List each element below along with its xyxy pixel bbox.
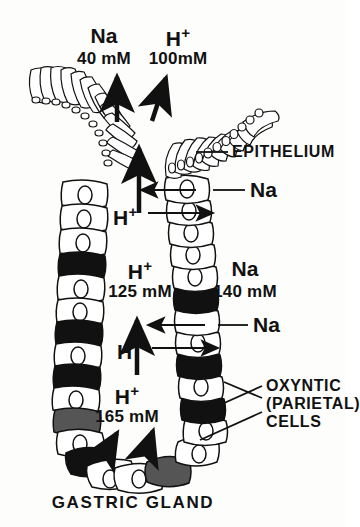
oxyntic-label-line2: (PARIETAL) — [266, 396, 360, 412]
h-lower-ion-text: H — [117, 340, 132, 363]
h-lower-arrow-label: H+ — [117, 338, 141, 362]
h-top-sup: + — [181, 24, 190, 41]
h-mid-conc-label: 125 mM — [108, 283, 172, 300]
na-mid-conc-label: 140 mM — [213, 283, 277, 300]
h-top-arrow — [152, 78, 166, 121]
h-top-ion-text: H — [166, 27, 181, 50]
h-bottom-ion-text: H — [115, 385, 130, 408]
na-lower-arrow-label: Na — [253, 314, 280, 335]
oxyntic-leader-line-2 — [224, 382, 262, 398]
h-upper-ion-text: H — [113, 206, 128, 229]
h-mid-ion-text: H — [128, 260, 143, 283]
h-top-ion-label: H+ — [166, 25, 190, 49]
h-mid-sup: + — [143, 257, 152, 274]
na-top-conc-label: 40 mM — [77, 50, 131, 67]
left-surface-epithelium — [29, 67, 138, 171]
na-upper-arrow-label: Na — [250, 179, 277, 200]
h-upper-arrow-label: H+ — [113, 204, 137, 228]
na-mid-ion-label: Na — [231, 258, 258, 279]
figure-title: GASTRIC GLAND — [52, 494, 214, 511]
h-bottom-conc-label: 165 mM — [95, 408, 159, 425]
oxyntic-label-line1: OXYNTIC — [266, 378, 341, 394]
epithelium-label: EPITHELIUM — [232, 144, 335, 160]
h-top-conc-label: 100mM — [149, 50, 208, 67]
h-mid-ion-label: H+ — [128, 258, 152, 282]
base-flow-left-arrow — [104, 433, 117, 455]
h-lower-sup: + — [132, 337, 141, 354]
oxyntic-label-line3: CELLS — [266, 414, 321, 430]
na-top-ion-label: Na — [90, 25, 117, 46]
right-limb-cells — [165, 175, 228, 445]
base-flow-right-arrow — [145, 431, 153, 455]
h-upper-sup: + — [128, 203, 137, 220]
h-bottom-sup: + — [130, 382, 139, 399]
h-bottom-ion-label: H+ — [115, 383, 139, 407]
